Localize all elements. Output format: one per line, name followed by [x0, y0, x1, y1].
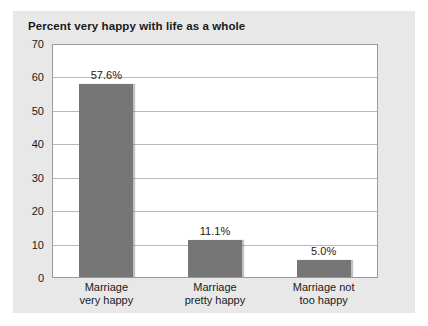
x-tick-label: Marriagevery happy	[52, 281, 161, 307]
x-tick-label-line2: pretty happy	[161, 294, 270, 307]
bar-value-label: 11.1%	[174, 225, 256, 237]
bar-value-label: 5.0%	[283, 245, 365, 257]
x-tick-label-line1: Marriage	[161, 281, 270, 294]
y-tick-label: 0	[38, 272, 44, 284]
bar[interactable]	[297, 260, 351, 277]
bar-value-label: 57.6%	[65, 69, 147, 81]
bar-group: 5.0%	[297, 44, 351, 277]
y-tick-label: 50	[32, 105, 44, 117]
x-tick-label-line1: Marriage not	[269, 281, 378, 294]
y-tick-label: 30	[32, 172, 44, 184]
x-tick-label-line2: too happy	[269, 294, 378, 307]
y-tick-label: 70	[32, 38, 44, 50]
x-tick-label-line2: very happy	[52, 294, 161, 307]
bar[interactable]	[188, 240, 242, 277]
x-tick-label-line1: Marriage	[52, 281, 161, 294]
chart-title: Percent very happy with life as a whole	[28, 20, 245, 32]
y-tick-label: 60	[32, 71, 44, 83]
x-axis: Marriagevery happyMarriagepretty happyMa…	[52, 281, 378, 313]
y-axis: 010203040506070	[13, 44, 48, 278]
bars-layer: 57.6%11.1%5.0%	[52, 44, 378, 278]
bar-group: 11.1%	[188, 44, 242, 277]
bar[interactable]	[79, 84, 133, 277]
y-tick-label: 10	[32, 239, 44, 251]
y-tick-label: 40	[32, 138, 44, 150]
y-tick-label: 20	[32, 205, 44, 217]
bar-group: 57.6%	[79, 44, 133, 277]
x-tick-label: Marriagepretty happy	[161, 281, 270, 307]
x-tick-label: Marriage nottoo happy	[269, 281, 378, 307]
chart-panel: Percent very happy with life as a whole …	[13, 11, 415, 313]
